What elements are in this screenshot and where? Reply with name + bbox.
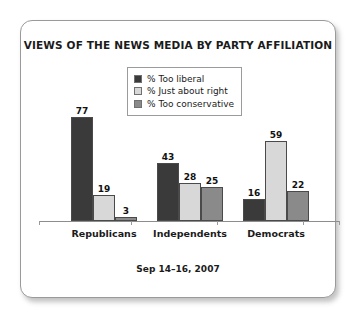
bar-fill [201, 187, 223, 221]
bar-fill [71, 117, 93, 221]
chart-title: VIEWS OF THE NEWS MEDIA BY PARTY AFFILIA… [21, 39, 335, 51]
bar: 22 [287, 113, 309, 221]
axis-tick [131, 221, 132, 225]
bar-value-label: 25 [195, 176, 229, 186]
legend-swatch-too-liberal [134, 75, 142, 83]
axis-tick [303, 221, 304, 225]
bar: 59 [265, 113, 287, 221]
legend-item: % Too conservative [134, 98, 234, 110]
axis-tick [339, 221, 340, 225]
bar-fill [243, 199, 265, 221]
bar: 16 [243, 113, 265, 221]
legend-label-too-liberal: % Too liberal [147, 74, 204, 84]
x-axis-line [39, 221, 339, 222]
legend-label-just-about-right: % Just about right [147, 86, 228, 96]
bar-fill [287, 191, 309, 221]
chart-subtitle: Sep 14–16, 2007 [21, 264, 335, 274]
plot-area: 77193432825165922 [39, 113, 321, 221]
chart-card: VIEWS OF THE NEWS MEDIA BY PARTY AFFILIA… [20, 20, 336, 298]
bar-value-label: 22 [281, 180, 315, 190]
bar-fill [179, 183, 201, 221]
axis-tick [39, 221, 40, 225]
bar: 19 [93, 113, 115, 221]
legend-item: % Just about right [134, 85, 234, 97]
legend-swatch-just-about-right [134, 87, 142, 95]
legend-swatch-too-conservative [134, 100, 142, 108]
category-label: Democrats [221, 228, 331, 239]
chart-legend: % Too liberal % Just about right % Too c… [127, 67, 242, 116]
bar: 77 [71, 113, 93, 221]
bar: 43 [157, 113, 179, 221]
bar: 28 [179, 113, 201, 221]
bar: 3 [115, 113, 137, 221]
legend-item: % Too liberal [134, 73, 234, 85]
axis-tick [217, 221, 218, 225]
bar-value-label: 3 [109, 206, 143, 216]
bar: 25 [201, 113, 223, 221]
legend-label-too-conservative: % Too conservative [147, 99, 234, 109]
